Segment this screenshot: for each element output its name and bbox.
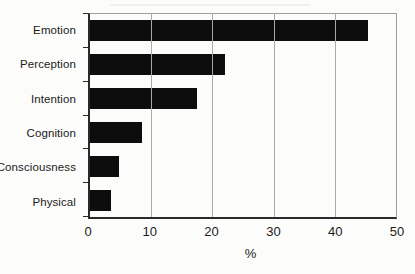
category-label-perception: Perception (0, 47, 82, 81)
y-axis-tick (83, 13, 89, 14)
x-tick-label-10: 10 (143, 224, 157, 239)
category-label-physical: Physical (0, 185, 82, 219)
x-tick-label-20: 20 (204, 224, 218, 239)
y-axis-tick (83, 216, 89, 217)
plot-area (88, 13, 397, 219)
bar-row-cognition (90, 115, 396, 149)
x-tick-label-0: 0 (84, 224, 91, 239)
x-axis-title: % (96, 246, 405, 261)
y-axis-tick (83, 47, 89, 48)
x-tick-label-40: 40 (328, 224, 342, 239)
bar-row-perception (90, 48, 396, 82)
x-tick-label-50: 50 (390, 224, 404, 239)
category-label-emotion: Emotion (0, 13, 82, 47)
bar-consciousness (90, 156, 119, 177)
bar-rows (90, 14, 396, 217)
gridline-40 (335, 14, 336, 217)
bar-intention (90, 88, 197, 109)
bar-perception (90, 54, 225, 75)
bar-cognition (90, 122, 142, 143)
y-axis-tick (83, 115, 89, 116)
gridline-10 (151, 14, 152, 217)
bar-emotion (90, 20, 368, 41)
bar-physical (90, 190, 111, 211)
y-axis-tick (83, 182, 89, 183)
category-labels: EmotionPerceptionIntentionCognitionConsc… (0, 13, 82, 219)
gridline-20 (212, 14, 213, 217)
y-axis-tick (83, 148, 89, 149)
x-axis-labels: 01020304050 (88, 224, 397, 239)
bar-chart-figure: EmotionPerceptionIntentionCognitionConsc… (0, 0, 415, 274)
gridline-30 (274, 14, 275, 217)
category-label-cognition: Cognition (0, 116, 82, 150)
bar-row-physical (90, 183, 396, 217)
category-label-intention: Intention (0, 82, 82, 116)
x-tick-label-30: 30 (266, 224, 280, 239)
y-axis-tick (83, 81, 89, 82)
category-label-consciousness: Consciousness (0, 150, 82, 184)
scan-artifact (110, 4, 310, 6)
bar-row-emotion (90, 14, 396, 48)
bar-row-intention (90, 82, 396, 116)
bar-row-consciousness (90, 149, 396, 183)
